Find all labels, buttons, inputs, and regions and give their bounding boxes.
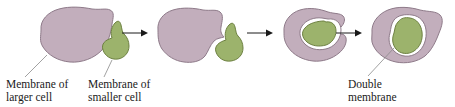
larger-cell-stage1	[41, 7, 114, 62]
smaller-cell-stage4	[393, 18, 423, 54]
label-larger-cell-line2: larger cell	[6, 91, 52, 104]
larger-cell-stage2	[158, 8, 224, 62]
leader-larger-cell	[25, 55, 47, 77]
stage-4-engulfed	[372, 7, 442, 62]
stage-3-engulfing	[284, 9, 346, 62]
arrow-stage2-to-stage3	[247, 30, 273, 37]
label-double-membrane-line2: membrane	[348, 91, 397, 103]
endosymbiosis-diagram: Membrane of larger cell Membrane of smal…	[0, 0, 455, 107]
label-smaller-cell-line2: smaller cell	[88, 91, 141, 103]
label-larger-cell-line1: Membrane of	[6, 78, 68, 90]
arrow-stage1-to-stage2	[122, 30, 148, 37]
leader-smaller-cell	[104, 60, 112, 77]
label-double-membrane-line1: Double	[348, 78, 382, 90]
label-smaller-cell-line1: Membrane of	[88, 78, 150, 90]
stage-1-separate-cells	[41, 7, 130, 62]
stage-2-contact	[158, 8, 243, 62]
